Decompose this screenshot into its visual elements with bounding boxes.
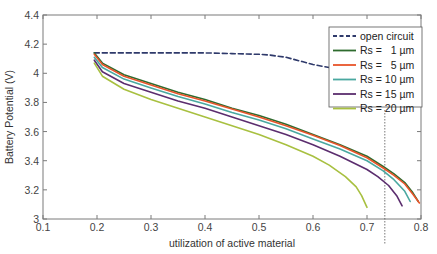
- y-tick-label: 4.2: [24, 38, 39, 50]
- legend-label: Rs = 10 µm: [360, 73, 414, 85]
- x-tick-label: 0.8: [414, 221, 429, 233]
- y-tick-label: 3.2: [24, 184, 39, 196]
- legend-label: Rs = 1 µm: [360, 44, 414, 56]
- x-tick-label: 0.4: [198, 221, 213, 233]
- y-tick-label: 3.4: [24, 155, 39, 167]
- y-axis-label: Battery Potential (V): [3, 70, 15, 164]
- y-tick-label: 3.6: [24, 126, 39, 138]
- x-tick-label: 0.7: [360, 221, 375, 233]
- x-tick-label: 0.3: [144, 221, 159, 233]
- y-tick-label: 4.4: [24, 9, 39, 21]
- legend-label: open circuit: [360, 30, 414, 42]
- legend: open circuitRs = 1 µmRs = 5 µmRs = 10 µm…: [329, 27, 422, 114]
- line-chart: 0.10.20.30.40.50.60.70.8 33.23.43.63.844…: [0, 0, 437, 254]
- y-tick-label: 3: [33, 213, 39, 225]
- y-tick-label: 3.8: [24, 96, 39, 108]
- x-tick-label: 0.2: [90, 221, 105, 233]
- legend-label: Rs = 20 µm: [360, 102, 414, 114]
- legend-label: Rs = 5 µm: [360, 59, 414, 71]
- x-axis-label: utilization of active material: [169, 237, 295, 249]
- x-tick-label: 0.5: [252, 221, 267, 233]
- x-tick-label: 0.6: [306, 221, 321, 233]
- legend-label: Rs = 15 µm: [360, 88, 414, 100]
- y-tick-label: 4: [33, 67, 39, 79]
